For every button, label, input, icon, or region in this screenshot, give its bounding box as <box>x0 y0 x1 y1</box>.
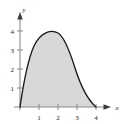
shaded-region <box>20 31 96 107</box>
x-tick-label-3: 3 <box>75 114 79 122</box>
x-axis-label: x <box>114 104 119 112</box>
x-tick-label-2: 2 <box>56 114 60 122</box>
x-tick-label-1: 1 <box>37 114 41 122</box>
y-tick-label-4: 4 <box>11 28 15 36</box>
y-tick-label-3: 3 <box>11 47 15 55</box>
y-axis-label: y <box>21 6 26 14</box>
x-tick-label-4: 4 <box>94 114 98 122</box>
x-axis-arrow-icon <box>104 104 112 109</box>
y-tick-label-2: 2 <box>11 66 15 74</box>
area-under-curve-figure: 1 2 3 4 1 2 3 4 y x <box>0 0 121 124</box>
y-tick-label-1: 1 <box>11 85 15 93</box>
